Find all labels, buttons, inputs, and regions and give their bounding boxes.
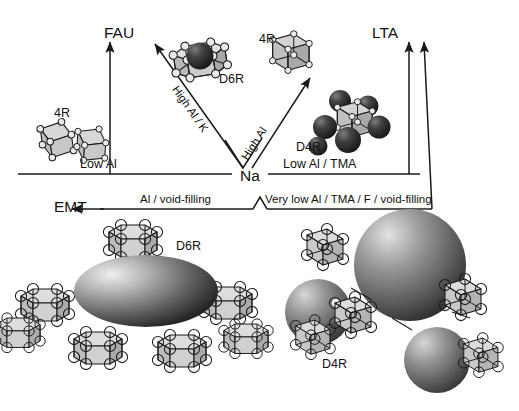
arrow-high-al — [252, 78, 310, 168]
zeolite-pathway-diagram: FAU LTA EMT Na Low Al High Al / K Low Al… — [0, 0, 519, 411]
product-label-lta: LTA — [372, 25, 398, 41]
unit-label-4r-left: 4R — [54, 107, 70, 120]
k-cation-sphere — [187, 43, 214, 70]
unit-label-4r-right: 4R — [259, 33, 275, 46]
unit-label-d6r-top: D6R — [219, 73, 244, 86]
unit-label-d4r-bottom: D4R — [322, 358, 347, 371]
pathway-label-al-void-filling: Al / void-filling — [140, 194, 211, 206]
emt-supercage — [74, 255, 218, 327]
product-label-fau: FAU — [104, 25, 134, 41]
unit-4r-right — [269, 31, 312, 74]
product-label-emt: EMT — [54, 199, 87, 215]
unit-label-d4r-top: D4R — [296, 141, 321, 154]
pathway-label-low-al-tma: Low Al / TMA — [283, 158, 356, 171]
structure-emt — [0, 219, 273, 372]
sodium-hub-label: Na — [240, 168, 260, 184]
unit-label-d6r-bottom: D6R — [176, 240, 201, 253]
pathway-label-low-al: Low Al — [80, 158, 117, 171]
structure-lta — [285, 209, 503, 393]
pathway-label-very-low-al: Very low Al / TMA / F / void-filling — [265, 194, 432, 206]
arrow-lta-diagonal — [424, 42, 432, 209]
